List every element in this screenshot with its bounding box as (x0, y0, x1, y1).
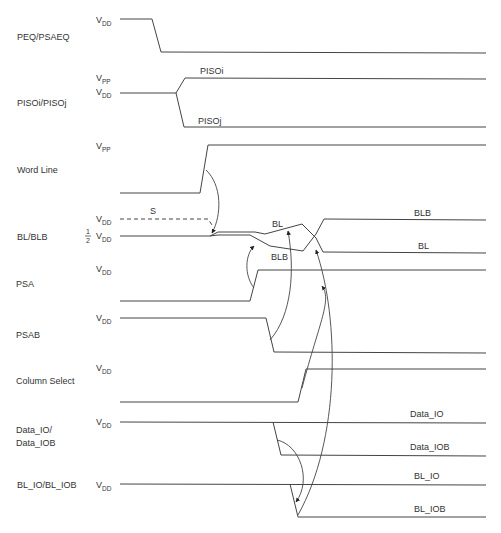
timing-diagram: PEQ/PSAEQ PISOi/PISOj Word Line BL/BLB P… (0, 0, 501, 533)
svg-text:VDD: VDD (96, 264, 112, 276)
waveform-psa (120, 270, 486, 301)
svg-text:VPP: VPP (96, 73, 111, 85)
level-vdd-colsel: VDD (96, 363, 112, 375)
signal-label-dataio-2: Data_IOB (16, 438, 56, 448)
waveform-peq (120, 19, 486, 53)
svg-text:VDD: VDD (96, 313, 112, 325)
annotation-bl-mid: BL (272, 219, 283, 229)
level-vdd-peq: VDD (96, 15, 112, 27)
svg-text:VPP: VPP (96, 141, 111, 153)
svg-text:1: 1 (86, 228, 90, 235)
level-vpp-wordline: VPP (96, 141, 111, 153)
level-vdd-bl: VDD (96, 214, 112, 226)
level-vdd-blio: VDD (96, 480, 112, 492)
waveform-psab (120, 318, 486, 353)
annotation-bliob-right: BL_IOB (414, 504, 446, 514)
svg-text:VDD: VDD (96, 231, 112, 243)
svg-text:2: 2 (86, 237, 90, 244)
branch-label-pisoi: PISOi (200, 66, 224, 76)
svg-text:VDD: VDD (96, 87, 112, 99)
level-half-vdd-bl: 1 2 VDD (85, 228, 112, 244)
arrow-dataiob-to-bliob (277, 440, 303, 502)
svg-text:VDD: VDD (96, 214, 112, 226)
signal-label-dataio-1: Data_IO/ (16, 425, 53, 435)
waveform-dataiob (273, 422, 486, 456)
waveform-blb (210, 219, 486, 251)
annotation-blb-right: BLB (414, 208, 431, 218)
signal-label-blblb: BL/BLB (17, 232, 48, 242)
level-vdd-psab: VDD (96, 313, 112, 325)
level-vdd-psa: VDD (96, 264, 112, 276)
waveform-dataio (120, 422, 486, 423)
waveform-pisoi (176, 78, 486, 93)
signal-label-colsel: Column Select (16, 376, 75, 386)
waveform-pisoj (176, 93, 486, 127)
level-vdd-dataio: VDD (96, 417, 112, 429)
arrow-wordline-to-bl (206, 170, 219, 233)
annotation-dataiob-right: Data_IOB (410, 442, 450, 452)
waveform-wordline (120, 145, 486, 193)
svg-text:VDD: VDD (96, 15, 112, 27)
signal-label-blio: BL_IO/BL_IOB (17, 480, 77, 490)
arrow-psa-to-blb (247, 246, 254, 288)
annotation-blb-mid: BLB (271, 252, 288, 262)
signal-label-psa: PSA (16, 279, 34, 289)
signal-label-wordline: Word Line (17, 165, 58, 175)
branch-label-pisoj: PISOj (198, 116, 222, 126)
signal-label-piso: PISOi/PISOj (17, 98, 67, 108)
annotation-bl-right: BL (418, 241, 429, 251)
svg-text:VDD: VDD (96, 417, 112, 429)
annotation-dataio-right: Data_IO (410, 409, 444, 419)
annotation-blio-right: BL_IO (414, 471, 440, 481)
signal-label-psab: PSAB (16, 330, 40, 340)
signal-label-peq: PEQ/PSAEQ (17, 32, 70, 42)
annotation-s: S (150, 206, 156, 216)
svg-text:VDD: VDD (96, 480, 112, 492)
waveform-s-dashed (120, 219, 212, 225)
level-vpp-piso: VPP (96, 73, 111, 85)
waveform-bliob (290, 484, 486, 517)
svg-text:VDD: VDD (96, 363, 112, 375)
level-vdd-piso: VDD (96, 87, 112, 99)
